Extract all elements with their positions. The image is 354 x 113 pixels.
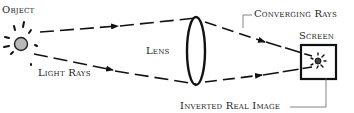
screen-label: Screen: [299, 31, 334, 41]
leader-lines: [243, 15, 326, 107]
inverted-real-image-label: Inverted Real Image: [180, 101, 280, 111]
lens-label: Lens: [146, 46, 169, 56]
light-rays-label: Light Rays: [38, 68, 91, 78]
object-sun-icon: [4, 22, 37, 65]
converging-rays-label: Converging Rays: [254, 9, 337, 19]
lens-shape: [187, 17, 205, 85]
inverted-image-icon: [311, 53, 326, 68]
converging-rays: [205, 22, 312, 82]
lens-diagram: Object Light Rays Lens Converging Rays S…: [0, 0, 354, 113]
object-label: Object: [2, 5, 34, 15]
